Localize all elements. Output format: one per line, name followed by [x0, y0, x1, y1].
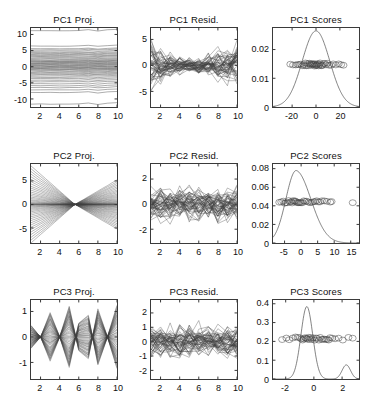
xtick-label-pc2-proj: 4	[57, 247, 62, 257]
xtick-label-pc1-scores: 20	[335, 111, 345, 121]
ytick-label-pc1-resid: 0	[142, 60, 147, 70]
ytick-label-pc3-proj: 1	[22, 306, 27, 316]
ytick-label-pc2-resid: -2	[139, 225, 147, 235]
ytick-label-pc3-proj: -1	[19, 358, 27, 368]
ytick-label-pc1-proj: -5	[19, 78, 27, 88]
ytick-label-pc3-scores: 0	[264, 375, 269, 385]
xtick-label-pc3-proj: 10	[113, 383, 123, 393]
ytick-label-pc2-scores: 0.08	[251, 163, 269, 173]
ytick-label-pc2-proj: -5	[19, 224, 27, 234]
panel-title-pc1-proj: PC1 Proj.	[30, 14, 118, 25]
xtick-label-pc2-scores: 10	[330, 247, 340, 257]
xtick-label-pc1-resid: 8	[216, 111, 221, 121]
ytick-label-pc1-scores: 0.02	[251, 44, 269, 54]
ytick-label-pc1-proj: 10	[17, 29, 27, 39]
xtick-label-pc1-scores: 0	[313, 111, 318, 121]
xtick-label-pc2-resid: 4	[177, 247, 182, 257]
panel-title-pc1-resid: PC1 Resid.	[150, 14, 238, 25]
ytick-label-pc3-resid: -2	[139, 366, 147, 376]
xtick-label-pc3-scores: 0	[311, 383, 316, 393]
panel-title-pc2-proj: PC2 Proj.	[30, 150, 118, 161]
ytick-label-pc3-resid: 2	[142, 307, 147, 317]
ytick-label-pc3-scores: 0.1	[256, 356, 269, 366]
plot-area-pc3-resid	[150, 299, 238, 380]
xtick-label-pc3-resid: 6	[196, 383, 201, 393]
plot-area-pc3-scores	[272, 299, 360, 380]
xtick-label-pc2-resid: 2	[157, 247, 162, 257]
xtick-label-pc2-resid: 10	[233, 247, 243, 257]
xtick-label-pc1-proj: 10	[113, 111, 123, 121]
panel-title-pc1-scores: PC1 Scores	[272, 14, 360, 25]
ytick-label-pc2-resid: 2	[142, 173, 147, 183]
panel-title-pc3-scores: PC3 Scores	[272, 286, 360, 297]
ytick-label-pc1-resid: 5	[142, 34, 147, 44]
xtick-label-pc3-resid: 10	[233, 383, 243, 393]
ytick-label-pc1-proj: 0	[22, 62, 27, 72]
xtick-label-pc1-resid: 6	[196, 111, 201, 121]
xtick-label-pc1-proj: 2	[37, 111, 42, 121]
xtick-label-pc1-scores: -20	[285, 111, 298, 121]
ytick-label-pc2-scores: 0.06	[251, 182, 269, 192]
plot-area-pc1-proj	[30, 27, 118, 108]
ytick-label-pc1-scores: 0	[264, 103, 269, 113]
pca-figure-grid: PC1 Proj.-10-50510246810PC1 Resid.-50524…	[0, 0, 371, 412]
xtick-label-pc2-resid: 6	[196, 247, 201, 257]
ytick-label-pc2-scores: 0.02	[251, 220, 269, 230]
xtick-label-pc1-resid: 10	[233, 111, 243, 121]
ytick-label-pc3-proj: 0	[22, 332, 27, 342]
xtick-label-pc1-resid: 2	[157, 111, 162, 121]
ytick-label-pc3-resid: -1	[139, 351, 147, 361]
plot-area-pc1-resid	[150, 27, 238, 108]
xtick-label-pc3-proj: 6	[76, 383, 81, 393]
xtick-label-pc2-proj: 8	[96, 247, 101, 257]
ytick-label-pc3-resid: 0	[142, 337, 147, 347]
panel-title-pc2-resid: PC2 Resid.	[150, 150, 238, 161]
xtick-label-pc3-proj: 2	[37, 383, 42, 393]
panel-title-pc3-proj: PC3 Proj.	[30, 286, 118, 297]
xtick-label-pc3-resid: 8	[216, 383, 221, 393]
ytick-label-pc3-scores: 0.3	[256, 317, 269, 327]
xtick-label-pc3-proj: 4	[57, 383, 62, 393]
xtick-label-pc2-resid: 8	[216, 247, 221, 257]
xtick-label-pc1-proj: 8	[96, 111, 101, 121]
ytick-label-pc2-proj: 5	[22, 175, 27, 185]
xtick-label-pc2-proj: 2	[37, 247, 42, 257]
xtick-label-pc1-proj: 6	[76, 111, 81, 121]
ytick-label-pc1-resid: -5	[139, 87, 147, 97]
xtick-label-pc2-scores: 0	[298, 247, 303, 257]
xtick-label-pc3-scores: 2	[340, 383, 345, 393]
xtick-label-pc2-scores: 5	[315, 247, 320, 257]
xtick-label-pc2-proj: 10	[113, 247, 123, 257]
plot-area-pc2-proj	[30, 163, 118, 244]
xtick-label-pc2-scores: -5	[280, 247, 288, 257]
plot-area-pc2-scores	[272, 163, 360, 244]
xtick-label-pc3-scores: -2	[281, 383, 289, 393]
plot-area-pc1-scores	[272, 27, 360, 108]
ytick-label-pc1-proj: 5	[22, 45, 27, 55]
ytick-label-pc3-resid: 1	[142, 322, 147, 332]
xtick-label-pc3-resid: 4	[177, 383, 182, 393]
panel-title-pc2-scores: PC2 Scores	[272, 150, 360, 161]
xtick-label-pc3-proj: 8	[96, 383, 101, 393]
ytick-label-pc1-scores: 0.01	[251, 74, 269, 84]
xtick-label-pc2-proj: 6	[76, 247, 81, 257]
plot-area-pc2-resid	[150, 163, 238, 244]
ytick-label-pc2-scores: 0	[264, 239, 269, 249]
xtick-label-pc3-resid: 2	[157, 383, 162, 393]
ytick-label-pc3-scores: 0.2	[256, 336, 269, 346]
xtick-label-pc2-scores: 15	[347, 247, 357, 257]
ytick-label-pc2-resid: 0	[142, 199, 147, 209]
ytick-label-pc1-proj: -10	[14, 95, 27, 105]
ytick-label-pc2-scores: 0.04	[251, 201, 269, 211]
xtick-label-pc1-proj: 4	[57, 111, 62, 121]
panel-title-pc3-resid: PC3 Resid.	[150, 286, 238, 297]
xtick-label-pc1-resid: 4	[177, 111, 182, 121]
plot-area-pc3-proj	[30, 299, 118, 380]
ytick-label-pc3-scores: 0.4	[256, 298, 269, 308]
ytick-label-pc2-proj: 0	[22, 199, 27, 209]
